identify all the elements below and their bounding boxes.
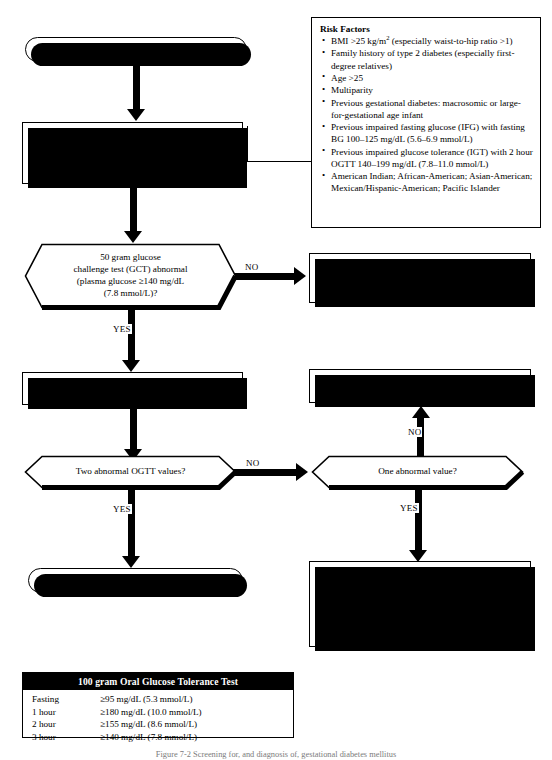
risk-factors-list: BMI >25 kg/m2 (especially waist-to-hip r… xyxy=(319,35,534,194)
decision-gct-shape xyxy=(24,243,237,309)
table-cell-value: ≥180 mg/dL (10.0 mmol/L) xyxy=(100,705,293,718)
smbg-paragraph-1: Use SMBG to monitor fasting and 2 hours … xyxy=(318,567,522,591)
arrowhead-one-abnormal-no xyxy=(412,406,430,418)
table-row: 3 hour ≥140 mg/dL (7.8 mmol/L) xyxy=(23,731,293,744)
connector-screening-to-gct xyxy=(130,186,137,232)
node-perform-ogtt[interactable]: Perform 100 gram oral glucose tolerance … xyxy=(22,372,243,405)
risk-factor-item-1-pre: BMI >25 kg/m xyxy=(331,36,386,46)
risk-factor-item: Previous impaired glucose tolerance (IGT… xyxy=(331,146,534,170)
connector-gct-no xyxy=(232,273,296,280)
connector-ogtt-to-two-abnormal xyxy=(130,406,137,450)
screening-line-1-bold: With risk factors: xyxy=(31,129,101,139)
table-cell-label: 1 hour xyxy=(23,705,100,718)
edge-label-two-abnormal-yes: YES xyxy=(112,504,132,514)
gct-no-line-1-bold: With risk factors: xyxy=(317,259,387,269)
gct-no-line-2: No risk factors: no further testing xyxy=(317,282,523,294)
decision-two-abnormal-shape xyxy=(24,455,237,489)
risk-factor-item: Age >25 xyxy=(331,72,534,84)
risk-factor-item: Family history of type 2 diabetes (espec… xyxy=(331,47,534,71)
perform-ogtt-line-1: Perform 100 gram oral glucose tolerance … xyxy=(31,377,234,389)
node-diagnosis-label: Diagnosis of gestational diabetes xyxy=(75,574,196,586)
node-diagnosis[interactable]: Diagnosis of gestational diabetes xyxy=(28,568,243,593)
table-cell-value: ≥155 mg/dL (8.6 mmol/L) xyxy=(100,718,293,731)
connector-screening-to-risk-factors-stub xyxy=(247,126,248,162)
repeat-ogtt-line-2-rest: no further testing xyxy=(378,387,444,397)
smbg-paragraph-gap xyxy=(318,591,522,599)
smbg-paragraph-2: If average fasting BG ≥95 mg/dL (5.3 mmo… xyxy=(318,599,522,648)
perform-ogtt-line-2: (OGTT) within 3 days of positive screen xyxy=(31,389,234,401)
edge-label-one-abnormal-yes: YES xyxy=(399,503,419,513)
edge-label-one-abnormal-no: NO xyxy=(407,427,422,437)
arrowhead-gct-no xyxy=(294,267,306,285)
connector-one-abnormal-yes xyxy=(415,487,422,551)
table-row: 1 hour ≥180 mg/dL (10.0 mmol/L) xyxy=(23,705,293,718)
gct-no-line-2-rest: no further testing xyxy=(378,283,444,293)
risk-factor-item: Previous gestational diabetes: macrosomi… xyxy=(331,97,534,121)
edge-label-gct-yes: YES xyxy=(112,324,132,334)
edge-label-two-abnormal-no: NO xyxy=(245,458,260,468)
risk-factor-item: Previous impaired fasting glucose (IFG) … xyxy=(331,121,534,145)
screening-line-2-bold: No risk factors: xyxy=(31,141,92,151)
connector-screening-to-risk-factors xyxy=(247,161,311,162)
node-decision-two-abnormal[interactable]: Two abnormal OGTT values? xyxy=(24,455,237,489)
table-cell-label: Fasting xyxy=(23,693,100,706)
node-screening-instructions[interactable]: With risk factors: screen at first prena… xyxy=(22,122,243,184)
connector-start-to-screening xyxy=(133,62,140,110)
screening-line-1: With risk factors: screen at first prena… xyxy=(31,128,234,140)
arrowhead-start-to-screening xyxy=(127,109,145,121)
screening-line-2: No risk factors: screen at 24–28th gesta… xyxy=(31,140,234,152)
connector-two-abnormal-yes xyxy=(128,487,135,557)
gct-no-line-1: With risk factors: rescreen at 24 and 32… xyxy=(317,258,523,282)
table-cell-label: 2 hour xyxy=(23,718,100,731)
node-decision-one-abnormal[interactable]: One abnormal value? xyxy=(311,455,524,489)
table-ogtt-criteria: 100 gram Oral Glucose Tolerance Test Fas… xyxy=(22,672,294,738)
table-cell-label: 3 hour xyxy=(23,731,100,744)
node-repeat-ogtt[interactable]: With risk factors: repeat OGTT at 32 wee… xyxy=(309,369,531,403)
risk-factor-item: Multiparity xyxy=(331,84,534,96)
risk-factor-item-1-post: (especially waist-to-hip ratio >1) xyxy=(390,36,513,46)
node-decision-gct-abnormal[interactable]: 50 gram glucose challenge test (GCT) abn… xyxy=(24,243,237,309)
arrowhead-two-abnormal-yes xyxy=(122,556,140,568)
risk-factor-item: American Indian; African-American; Asian… xyxy=(331,170,534,194)
table-ogtt-header: 100 gram Oral Glucose Tolerance Test xyxy=(23,673,293,690)
repeat-ogtt-line-1-rest: repeat OGTT at 32 weeks xyxy=(387,375,484,385)
repeat-ogtt-line-1: With risk factors: repeat OGTT at 32 wee… xyxy=(317,374,523,386)
repeat-ogtt-line-1-bold: With risk factors: xyxy=(317,375,387,385)
gct-no-line-2-bold: No risk factors: xyxy=(317,283,378,293)
arrowhead-screening-to-gct xyxy=(124,231,142,243)
screening-line-3: Screen with 50 gram glucose challenge te… xyxy=(31,152,234,164)
node-gct-no-result[interactable]: With risk factors: rescreen at 24 and 32… xyxy=(309,253,531,303)
table-row: Fasting ≥95 mg/dL (5.3 mmol/L) xyxy=(23,693,293,706)
repeat-ogtt-line-2-bold: No risk factors: xyxy=(317,387,378,397)
repeat-ogtt-line-2: No risk factors: no further testing xyxy=(317,386,523,398)
figure-caption: Figure 7-2 Screening for, and diagnosis … xyxy=(0,750,552,759)
table-cell-value: ≥95 mg/dL (5.3 mmol/L) xyxy=(100,693,293,706)
node-smbg-management[interactable]: Use SMBG to monitor fasting and 2 hours … xyxy=(309,561,531,647)
node-patient-is-pregnant[interactable]: Patient is pregnant xyxy=(25,37,247,62)
node-patient-is-pregnant-label: Patient is pregnant xyxy=(102,43,170,55)
table-ogtt-body: Fasting ≥95 mg/dL (5.3 mmol/L) 1 hour ≥1… xyxy=(23,693,293,744)
arrowhead-gct-yes xyxy=(122,360,140,372)
decision-one-abnormal-shape xyxy=(311,455,524,489)
risk-factor-item: BMI >25 kg/m2 (especially waist-to-hip r… xyxy=(331,35,534,47)
panel-risk-factors: Risk Factors BMI >25 kg/m2 (especially w… xyxy=(311,17,541,228)
screening-line-2-rest: screen at 24–28th gestational week xyxy=(92,141,223,151)
connector-gct-yes xyxy=(128,307,135,361)
connector-two-abnormal-no xyxy=(232,469,298,476)
edge-label-gct-no: NO xyxy=(244,262,259,272)
flowchart-canvas: Patient is pregnant Risk Factors BMI >25… xyxy=(0,0,552,760)
table-row: 2 hour ≥155 mg/dL (8.6 mmol/L) xyxy=(23,718,293,731)
risk-factors-title: Risk Factors xyxy=(320,23,534,35)
screening-line-1-rest: screen at first prenatal visit xyxy=(101,129,203,139)
table-cell-value: ≥140 mg/dL (7.8 mmol/L) xyxy=(100,731,293,744)
arrowhead-two-abnormal-no xyxy=(296,463,308,481)
